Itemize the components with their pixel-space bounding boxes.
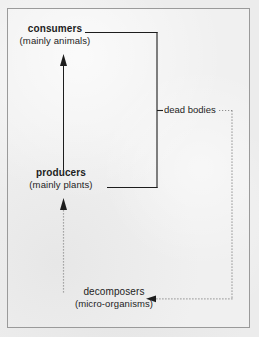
edge-producers-to-consumers [60, 54, 67, 170]
node-consumers: consumers (mainly animals) [14, 23, 96, 47]
edge-dead-bodies-to-decomposers [146, 111, 233, 303]
label-dead-bodies: dead bodies [164, 104, 216, 115]
node-producers-label: producers [20, 167, 102, 179]
diagram-figure: consumers (mainly animals) producers (ma… [0, 0, 259, 337]
edge-decomposers-to-producers [60, 198, 67, 293]
node-consumers-sublabel: (mainly animals) [14, 35, 96, 47]
node-producers: producers (mainly plants) [20, 167, 102, 191]
node-producers-sublabel: (mainly plants) [20, 179, 102, 191]
node-decomposers-sublabel: (micro-organisms) [62, 298, 166, 310]
node-consumers-label: consumers [14, 23, 96, 35]
node-decomposers-label: decomposers [62, 286, 166, 298]
node-decomposers: decomposers (micro-organisms) [62, 286, 166, 310]
dead-bodies-trunk-line [157, 32, 163, 188]
